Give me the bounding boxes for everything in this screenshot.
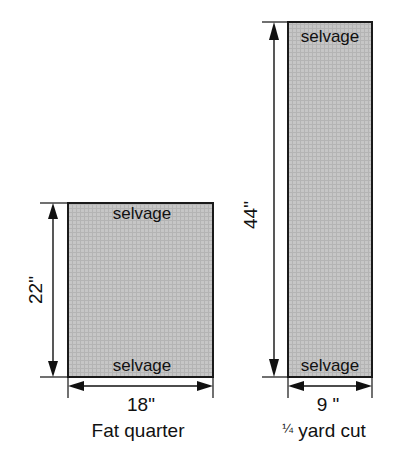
fat-quarter-top-selvage-label: selvage — [113, 204, 172, 223]
fat-quarter-bottom-selvage-label: selvage — [113, 356, 172, 375]
fat-quarter-group: selvage selvage 22" 18" Fat quarter — [25, 203, 213, 441]
quarter-yard-width-label: 9 " — [317, 394, 340, 415]
quarter-yard-height-arrow-down-icon — [269, 359, 279, 377]
quarter-yard-width-arrow-left-icon — [288, 381, 304, 391]
fat-quarter-height-arrow-down-icon — [48, 361, 58, 377]
quarter-yard-caption-fraction: ¼ — [282, 421, 293, 436]
fat-quarter-height-arrow-up-icon — [48, 203, 58, 219]
quarter-yard-height-arrow-up-icon — [269, 22, 279, 40]
quarter-yard-bottom-selvage-label: selvage — [301, 356, 360, 375]
fat-quarter-fabric-rect — [68, 203, 213, 377]
quarter-yard-fabric-rect — [288, 22, 372, 377]
fat-quarter-width-arrow-right-icon — [197, 381, 213, 391]
fat-quarter-height-label: 22" — [25, 276, 46, 304]
quarter-yard-group: selvage selvage 44" 9 " ¼ yard cut — [240, 22, 372, 441]
fat-quarter-width-label: 18" — [127, 394, 155, 415]
quarter-yard-caption: ¼ yard cut — [282, 420, 366, 441]
fat-quarter-caption: Fat quarter — [92, 420, 186, 441]
quarter-yard-caption-rest: yard cut — [293, 420, 367, 441]
fat-quarter-width-arrow-left-icon — [68, 381, 84, 391]
quarter-yard-height-label: 44" — [240, 201, 261, 229]
fabric-cuts-diagram: selvage selvage 22" 18" Fat quarter — [0, 0, 393, 462]
diagram-canvas: selvage selvage 22" 18" Fat quarter — [0, 0, 393, 462]
quarter-yard-width-arrow-right-icon — [356, 381, 372, 391]
quarter-yard-top-selvage-label: selvage — [301, 27, 360, 46]
